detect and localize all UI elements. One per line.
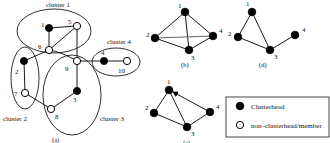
panel-c: 1 2 3 4 (c) (145, 78, 220, 143)
panel-b: 1 2 3 4 (b) (146, 2, 223, 69)
node-label-c3: 3 (191, 130, 195, 138)
legend-clusterhead-label: Clusterhead (251, 103, 285, 111)
node-label-1: 1 (41, 21, 45, 29)
clusterhead-node-4 (100, 57, 107, 64)
clusterhead-node-b3 (185, 46, 193, 54)
panel-b-caption: (b) (181, 61, 189, 69)
node-label-10: 10 (118, 67, 126, 75)
node-label-6: 6 (38, 43, 42, 51)
node-label-d1: 1 (246, 0, 250, 8)
clusterhead-node-c3 (183, 123, 191, 131)
clusterhead-node-b1 (181, 8, 189, 16)
edge-7-8 (25, 93, 51, 109)
legend-member-label: non–clusterhead/member (251, 122, 322, 130)
clusterhead-node-c2 (150, 109, 158, 117)
panel-a: 1 2 3 4 5 6 7 8 9 10 cluster 1 cluster 2… (3, 1, 140, 143)
node-label-c1: 1 (167, 78, 171, 86)
node-label-d2: 2 (228, 30, 232, 38)
member-node-8 (47, 105, 54, 112)
cluster-1-ellipse (17, 9, 91, 53)
member-node-5 (73, 22, 80, 29)
node-label-2: 2 (15, 68, 19, 76)
edge-b-1-2 (155, 12, 185, 38)
clusterhead-node-b4 (209, 32, 217, 40)
clusterhead-legend-icon (236, 102, 244, 110)
member-node-9 (73, 57, 80, 64)
node-label-c4: 4 (216, 103, 220, 111)
edge-1-5 (49, 26, 77, 28)
clusterhead-node-d4 (291, 31, 299, 39)
clusterhead-node-3 (73, 87, 80, 94)
node-label-b4: 4 (219, 27, 223, 35)
edge-b-2-3 (155, 38, 189, 50)
node-label-8: 8 (55, 113, 59, 121)
panel-a-caption: (a) (52, 136, 59, 143)
node-label-9: 9 (65, 65, 69, 73)
node-label-7: 7 (14, 90, 18, 98)
panel-d-caption: (d) (259, 61, 267, 69)
clusterhead-node-c4 (206, 108, 214, 116)
panel-d: 1 2 3 4 (d) (228, 0, 306, 69)
edge-b-2-4 (155, 36, 213, 38)
edge-b-1-4 (185, 12, 213, 36)
clusterhead-node-1 (45, 24, 52, 31)
member-node-6 (45, 46, 52, 53)
node-label-c2: 2 (145, 104, 149, 112)
edge-c-1-3 (169, 90, 187, 127)
clusterhead-node-d2 (234, 33, 242, 41)
clusterhead-node-d1 (248, 8, 256, 16)
cluster-3-label: cluster 3 (100, 115, 124, 123)
clusterhead-node-d3 (266, 46, 274, 54)
edge-d-3-4 (270, 35, 295, 50)
legend: Clusterhead non–clusterhead/member (226, 97, 329, 137)
cluster-4-ellipse (92, 48, 140, 76)
node-label-5: 5 (68, 18, 72, 26)
cluster-2-label: cluster 2 (3, 115, 27, 123)
node-label-b3: 3 (191, 54, 195, 62)
node-label-b1: 1 (178, 2, 182, 10)
node-label-4: 4 (101, 49, 105, 57)
panel-c-caption: (c) (183, 139, 190, 143)
edge-b-1-3 (185, 12, 189, 50)
member-node-7 (21, 89, 28, 96)
cluster-1-label: cluster 1 (46, 1, 70, 9)
node-label-d4: 4 (302, 26, 306, 34)
node-label-3: 3 (73, 96, 77, 104)
edge-6-5 (49, 26, 77, 50)
cluster-4-label: cluster 4 (107, 38, 131, 46)
clusterhead-node-2 (20, 57, 27, 64)
edge-c-2-3 (154, 113, 187, 127)
member-legend-icon (236, 121, 243, 128)
node-label-d3: 3 (274, 53, 278, 61)
member-node-10 (123, 57, 130, 64)
clusterhead-node-c1 (165, 86, 173, 94)
node-label-b2: 2 (146, 31, 150, 39)
edge-6-9 (49, 50, 77, 61)
edge-d-1-2 (238, 12, 252, 37)
clusterhead-node-b2 (151, 34, 159, 42)
cluster-diagram: 1 2 3 4 5 6 7 8 9 10 cluster 1 cluster 2… (0, 0, 330, 143)
edge-2-7 (24, 61, 25, 93)
